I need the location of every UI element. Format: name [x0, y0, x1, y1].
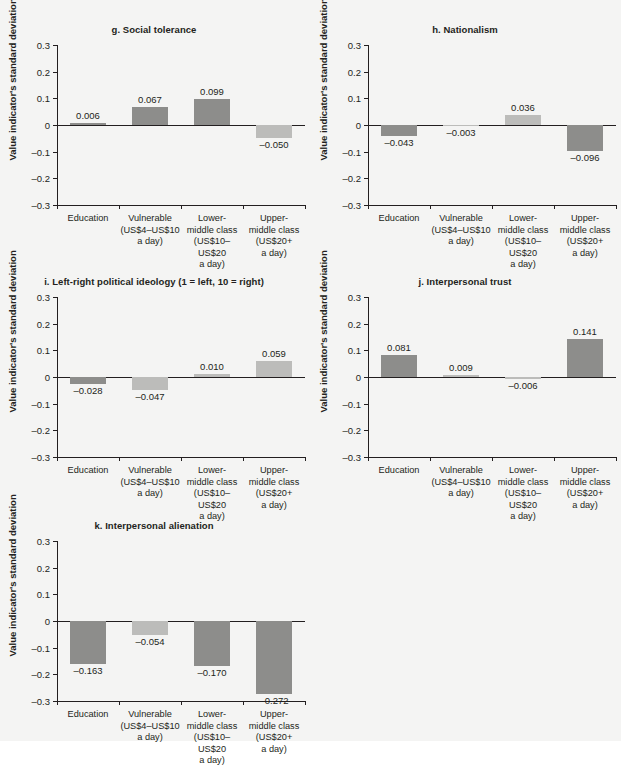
x-tick-mark — [181, 205, 182, 209]
y-tick-label: –0.3 — [32, 696, 51, 707]
bar — [132, 621, 168, 635]
x-category-label-line: Vulnerable — [430, 465, 492, 477]
x-category-label-line: (US$20+ — [243, 236, 305, 248]
x-category-label-line: Vulnerable — [119, 213, 181, 225]
x-category-label-line: Education — [57, 709, 119, 721]
x-tick-mark — [368, 457, 369, 461]
panel-title: j. Interpersonal trust — [311, 276, 619, 287]
x-category-label: Education — [368, 465, 430, 477]
y-axis-label: Value indicator's standard deviation — [318, 11, 329, 161]
y-tick-label: –0.1 — [32, 643, 51, 654]
chart-panel-j: j. Interpersonal trustValue indicator's … — [311, 252, 619, 502]
zero-baseline — [368, 377, 616, 378]
bar — [381, 355, 417, 377]
x-category-label-line: Vulnerable — [119, 709, 181, 721]
x-category-label-line: (US$20+ — [243, 732, 305, 744]
x-tick-mark — [181, 457, 182, 461]
x-category-label-line: Vulnerable — [430, 213, 492, 225]
x-category-label: Vulnerable(US$4–US$10a day) — [119, 709, 181, 744]
y-tick-label: 0 — [45, 372, 50, 383]
x-category-label: Education — [368, 213, 430, 225]
bar — [132, 107, 168, 125]
x-category-label-line: middle class — [181, 225, 243, 237]
x-tick-mark — [554, 457, 555, 461]
y-tick-label: 0 — [356, 120, 361, 131]
x-tick-mark — [492, 457, 493, 461]
y-tick-label: –0.2 — [32, 669, 51, 680]
y-tick-mark — [53, 541, 57, 542]
bar — [194, 621, 230, 666]
y-tick-label: 0 — [356, 372, 361, 383]
y-tick-label: –0.2 — [32, 425, 51, 436]
bar — [256, 125, 292, 138]
y-axis-label: Value indicator's standard deviation — [318, 263, 329, 413]
y-tick-label: 0 — [45, 616, 50, 627]
x-category-label: Vulnerable(US$4–US$10a day) — [430, 465, 492, 500]
y-tick-label: 0.1 — [37, 93, 50, 104]
y-tick-mark — [364, 297, 368, 298]
x-tick-mark — [57, 701, 58, 705]
x-tick-mark — [430, 457, 431, 461]
x-tick-mark — [119, 205, 120, 209]
x-category-label-line: a day) — [430, 488, 492, 500]
x-category-label-line: (US$4–US$10 — [119, 721, 181, 733]
x-category-label-line: middle class — [243, 225, 305, 237]
x-tick-mark — [305, 205, 306, 209]
panel-title: i. Left-right political ideology (1 = le… — [0, 276, 308, 287]
y-tick-label: –0.1 — [343, 147, 362, 158]
y-tick-label: 0.3 — [37, 292, 50, 303]
x-tick-mark — [181, 701, 182, 705]
plot-area: 0.30.20.10–0.1–0.2–0.30.081Education0.00… — [368, 297, 616, 457]
bar — [70, 621, 106, 664]
y-tick-mark — [364, 404, 368, 405]
plot-area: 0.30.20.10–0.1–0.2–0.30.006Education0.06… — [57, 45, 305, 205]
bar — [70, 123, 106, 125]
y-tick-mark — [53, 297, 57, 298]
x-tick-mark — [57, 457, 58, 461]
figure-canvas: g. Social toleranceValue indicator's sta… — [0, 0, 621, 741]
y-axis-label: Value indicator's standard deviation — [7, 507, 18, 657]
y-tick-mark — [53, 594, 57, 595]
y-tick-label: –0.3 — [32, 200, 51, 211]
bar — [132, 377, 168, 390]
bar-value-label: –0.050 — [236, 139, 312, 150]
x-category-label-line: (US$4–US$10 — [430, 225, 492, 237]
bar-value-label: –0.043 — [361, 137, 437, 148]
x-category-label-line: a day) — [492, 511, 554, 523]
x-tick-mark — [492, 205, 493, 209]
y-tick-mark — [53, 404, 57, 405]
y-tick-mark — [364, 324, 368, 325]
x-category-label-line: Education — [368, 213, 430, 225]
x-category-label-line: Education — [57, 213, 119, 225]
bar — [194, 374, 230, 377]
x-category-label: Vulnerable(US$4–US$10a day) — [430, 213, 492, 248]
bar — [567, 125, 603, 151]
x-category-label: Lower-middle class(US$10–US$20a day) — [181, 709, 243, 767]
chart-panel-h: h. NationalismValue indicator's standard… — [311, 0, 619, 250]
y-tick-label: 0.1 — [348, 345, 361, 356]
y-tick-mark — [53, 152, 57, 153]
x-tick-mark — [119, 701, 120, 705]
x-category-label: Education — [57, 465, 119, 477]
x-category-label-line: (US$4–US$10 — [119, 477, 181, 489]
y-tick-label: 0.3 — [348, 292, 361, 303]
y-tick-label: 0.3 — [348, 40, 361, 51]
x-category-label-line: a day) — [119, 236, 181, 248]
x-category-label: Education — [57, 709, 119, 721]
x-tick-mark — [243, 457, 244, 461]
y-tick-mark — [364, 72, 368, 73]
bar — [194, 99, 230, 125]
y-tick-mark — [364, 178, 368, 179]
x-category-label-line: a day) — [430, 236, 492, 248]
y-tick-label: 0.1 — [37, 589, 50, 600]
y-tick-mark — [53, 178, 57, 179]
panel-title: h. Nationalism — [311, 24, 619, 35]
bar-value-label: –0.163 — [50, 665, 126, 676]
bar — [443, 125, 479, 126]
y-tick-label: 0.2 — [348, 319, 361, 330]
x-category-label-line: a day) — [243, 744, 305, 756]
bar — [505, 115, 541, 125]
panel-title: g. Social tolerance — [0, 24, 308, 35]
y-tick-label: 0.3 — [37, 536, 50, 547]
bar-value-label: –0.006 — [485, 380, 561, 391]
